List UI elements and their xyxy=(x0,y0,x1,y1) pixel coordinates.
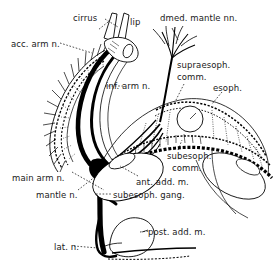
lip-process xyxy=(118,13,129,40)
leader-acc-arm-n xyxy=(60,43,92,53)
leader-lines xyxy=(60,19,222,248)
label-subesoph: subesoph. xyxy=(167,152,211,161)
leader-supraesoph xyxy=(176,84,184,100)
label-supraesoph-comm: comm. xyxy=(177,73,207,82)
label-inf-arm-n: inf. arm n. xyxy=(106,82,150,91)
label-ant-add-m: ant. add. m. xyxy=(136,178,189,187)
label-post-add-m: post. add. m. xyxy=(148,228,205,237)
label-dmed-mantle-nn: dmed. mantle nn. xyxy=(160,14,237,23)
label-supraesoph: supraesoph. xyxy=(177,61,230,70)
label-acc-arm-n: acc. arm n. xyxy=(11,40,60,49)
cirrus-blade xyxy=(104,13,117,41)
label-subesoph-comm: comm. xyxy=(172,164,202,173)
label-main-arm-n: main arm n. xyxy=(12,174,65,183)
label-mantle-n: mantle n. xyxy=(36,191,78,200)
label-cirrus: cirrus xyxy=(73,14,97,23)
supraesophageal-commissure xyxy=(156,102,266,156)
label-esoph: esoph. xyxy=(213,84,242,93)
anatomical-diagram-figure: cirrus lip dmed. mantle nn. acc. arm n. … xyxy=(0,0,273,273)
label-lip: lip xyxy=(130,18,140,27)
arm-structure xyxy=(43,41,131,172)
label-lat-n: lat. n. xyxy=(54,243,79,252)
label-subesoph-gang: subesoph. gang. xyxy=(113,191,185,200)
